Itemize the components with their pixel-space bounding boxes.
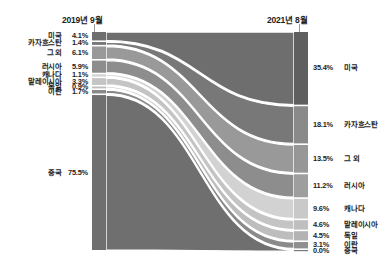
left-node-name: 러시아 <box>42 63 62 70</box>
sankey-chart: 2019년 9월 2021년 8월 미국4.1%카자흐스탄1.4%그 외6.1%… <box>0 0 388 257</box>
right-node-label-0: 35.4%미국 <box>313 64 358 71</box>
left-node-name: 카자흐스탄 <box>28 39 62 46</box>
right-node-value: 11.2% <box>313 182 339 189</box>
sankey-node-right <box>294 231 308 240</box>
sankey-node-left <box>92 87 106 89</box>
sankey-node-left <box>92 74 106 76</box>
right-node-name: 미국 <box>344 64 358 71</box>
sankey-node-left <box>92 61 106 73</box>
sankey-node-right <box>294 145 308 173</box>
left-node-name: 그 외 <box>47 49 62 56</box>
right-node-name: 독일 <box>344 232 358 239</box>
left-node-name: 이란 <box>48 88 62 95</box>
left-node-label-2: 그 외6.1% <box>47 49 88 56</box>
right-node-name: 카자흐스탄 <box>344 121 378 128</box>
sankey-node-right <box>294 242 308 248</box>
right-node-name: 말레이시아 <box>344 221 378 228</box>
right-node-label-6: 4.5%독일 <box>313 232 358 239</box>
left-node-value: 1.4% <box>62 39 88 46</box>
right-node-label-5: 4.6%말레이시아 <box>313 221 378 228</box>
left-node-label-7: 이란1.7% <box>48 88 88 95</box>
left-node-label-3: 러시아5.9% <box>42 63 88 70</box>
right-node-name: 러시아 <box>344 182 364 189</box>
right-node-label-2: 13.5%그 외 <box>313 155 359 162</box>
right-node-value: 9.6% <box>313 205 339 212</box>
right-node-name: 캐나다 <box>344 205 364 212</box>
left-node-value: 1.7% <box>62 88 88 95</box>
right-node-value: 0.0% <box>313 247 339 254</box>
sankey-node-left <box>92 95 106 250</box>
left-node-value: 5.9% <box>62 63 88 70</box>
sankey-node-left <box>92 32 106 40</box>
sankey-node-right <box>294 250 308 251</box>
sankey-node-left <box>92 78 106 85</box>
right-node-label-1: 18.1%카자흐스탄 <box>313 121 378 128</box>
right-node-value: 35.4% <box>313 64 339 71</box>
left-node-value: 6.1% <box>62 49 88 56</box>
sankey-node-left <box>92 90 106 93</box>
sankey-node-right <box>294 32 308 105</box>
sankey-node-right <box>294 199 308 219</box>
left-node-label-8: 중국75.5% <box>48 169 88 176</box>
sankey-node-right <box>294 174 308 197</box>
right-node-label-4: 9.6%캐나다 <box>313 205 364 212</box>
right-node-value: 4.6% <box>313 221 339 228</box>
right-node-label-8: 0.0%중국 <box>313 247 358 254</box>
right-node-label-3: 11.2%러시아 <box>313 182 364 189</box>
right-node-value: 13.5% <box>313 155 339 162</box>
sankey-node-right <box>294 106 308 143</box>
left-node-name: 중국 <box>48 169 62 176</box>
left-node-value: 75.5% <box>62 169 88 176</box>
right-node-value: 18.1% <box>313 121 339 128</box>
right-node-value: 4.5% <box>313 232 339 239</box>
right-node-name: 중국 <box>344 247 358 254</box>
left-node-label-1: 카자흐스탄1.4% <box>28 39 88 46</box>
sankey-node-right <box>294 220 308 229</box>
right-node-name: 그 외 <box>344 155 359 162</box>
sankey-node-left <box>92 46 106 59</box>
sankey-node-left <box>92 42 106 45</box>
